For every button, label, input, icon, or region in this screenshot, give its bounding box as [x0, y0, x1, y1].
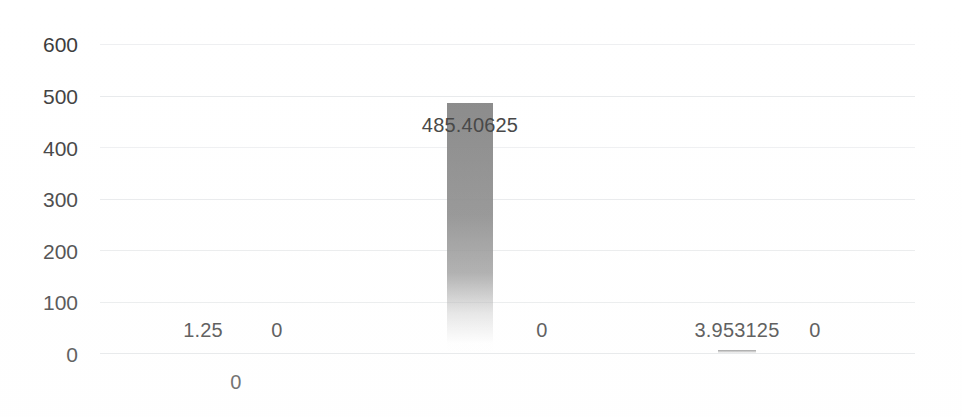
y-axis-tick-500: 500	[43, 86, 78, 107]
data-label-2: 0	[271, 320, 282, 340]
gridline-400	[100, 147, 915, 148]
plot-area: 1.25 0 0 485.40625 0 3.953125 0	[100, 44, 915, 353]
y-axis-tick-200: 200	[43, 241, 78, 262]
gridline-300	[100, 199, 915, 200]
data-label-4: 485.40625	[422, 115, 518, 135]
bar-tall[interactable]	[447, 103, 493, 353]
axis-baseline	[100, 353, 915, 354]
data-label-3: 0	[230, 372, 241, 392]
y-axis-tick-600: 600	[43, 34, 78, 55]
bar-stub[interactable]	[718, 350, 756, 353]
data-label-1: 1.25	[183, 320, 223, 340]
gridline-600	[100, 44, 915, 45]
gridline-200	[100, 250, 915, 251]
y-axis-labels: 600 500 400 300 200 100 0	[0, 0, 88, 417]
y-axis-tick-100: 100	[43, 292, 78, 313]
data-label-7: 0	[809, 320, 820, 340]
y-axis-tick-400: 400	[43, 138, 78, 159]
data-label-6: 3.953125	[694, 320, 779, 340]
data-label-5: 0	[536, 320, 547, 340]
bar-chart: 600 500 400 300 200 100 0 1.25 0 0 485.4…	[0, 0, 962, 417]
gridline-500	[100, 96, 915, 97]
y-axis-tick-0: 0	[66, 344, 78, 365]
y-axis-tick-300: 300	[43, 189, 78, 210]
gridline-100	[100, 302, 915, 303]
